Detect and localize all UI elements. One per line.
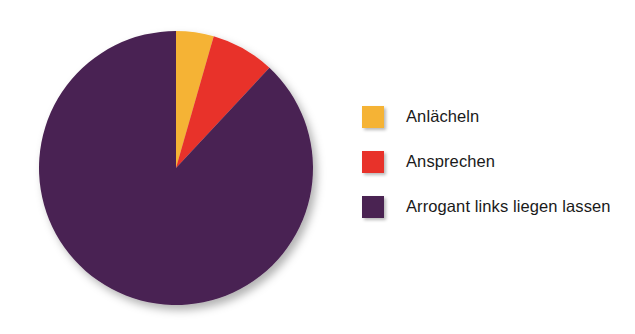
legend-swatch-icon-anlaecheln <box>362 106 384 128</box>
legend-swatch-icon-arrogant-links-liegen-lassen <box>362 196 384 218</box>
pie-chart-plot-area <box>0 0 360 334</box>
legend-item-ansprechen[interactable]: Ansprechen <box>362 139 635 184</box>
pie-slice-group <box>39 31 313 305</box>
legend-label-arrogant-links-liegen-lassen: Arrogant links liegen lassen <box>406 197 611 215</box>
legend-item-anlaecheln[interactable]: Anlächeln <box>362 94 635 139</box>
legend-label-ansprechen: Ansprechen <box>406 152 495 170</box>
legend-label-anlaecheln: Anlächeln <box>406 107 479 125</box>
pie-chart-figure: Anlächeln Ansprechen Arrogant links lieg… <box>0 0 635 334</box>
legend-swatch-icon-ansprechen <box>362 151 384 173</box>
chart-legend: Anlächeln Ansprechen Arrogant links lieg… <box>362 94 635 229</box>
legend-item-arrogant-links-liegen-lassen[interactable]: Arrogant links liegen lassen <box>362 184 635 229</box>
pie-chart-svg <box>0 0 360 334</box>
